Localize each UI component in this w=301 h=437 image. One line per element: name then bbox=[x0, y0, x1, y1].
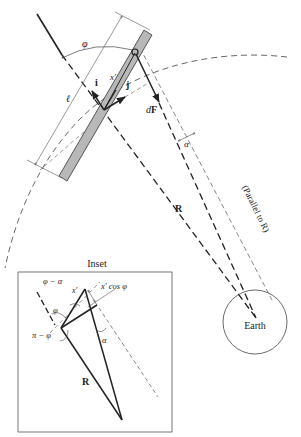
inset-x-cos-phi-label: x′ cos φ bbox=[100, 281, 127, 291]
length-ext-bottom bbox=[27, 160, 62, 178]
orbit-arc bbox=[5, 55, 287, 268]
length-ext-top bbox=[115, 12, 150, 30]
inset-alpha-label: α bbox=[102, 335, 107, 345]
phi-arc bbox=[62, 46, 133, 58]
inset-pi-minus-phi-label: π − φ bbox=[32, 330, 51, 340]
r-label: R bbox=[175, 203, 183, 214]
inset-box bbox=[18, 272, 172, 432]
inset-phi-label: φ bbox=[53, 305, 58, 315]
df-label: dF bbox=[146, 104, 157, 115]
length-label: ℓ bbox=[66, 93, 70, 104]
inset-title: Inset bbox=[87, 258, 107, 269]
x-prime-label: x′ bbox=[109, 72, 117, 82]
parallel-line bbox=[140, 48, 272, 300]
inset-x-prime-label: x′ bbox=[71, 286, 78, 295]
df-dashed-line bbox=[159, 103, 256, 318]
r-line-upper bbox=[37, 14, 62, 55]
alpha-label: α bbox=[184, 139, 189, 149]
j-vector-label: j bbox=[125, 79, 129, 90]
phi-label: φ bbox=[82, 38, 88, 49]
inset-r-label: R bbox=[82, 376, 90, 387]
earth-label: Earth bbox=[244, 320, 266, 331]
inset-phi-minus-alpha-label: φ − α bbox=[43, 276, 63, 286]
i-vector-label: i bbox=[95, 77, 98, 88]
parallel-to-r-label: (Parallel to R) bbox=[240, 183, 271, 233]
gravity-gradient-diagram: φ i j x′ ℓ dF α R (Parallel to R) Earth … bbox=[0, 0, 301, 437]
